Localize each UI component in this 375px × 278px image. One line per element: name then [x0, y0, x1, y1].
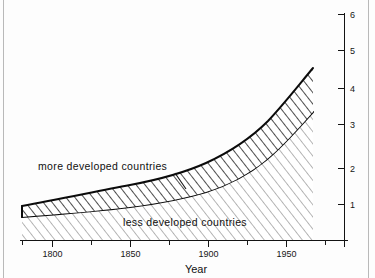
- x-tick-label-1900: 1900: [198, 249, 218, 259]
- x-tick-label-1950: 1950: [276, 249, 296, 259]
- x-tick-label-1800: 1800: [42, 249, 62, 259]
- y-tick-label-2: 2: [350, 164, 355, 174]
- y-tick-label-6: 6: [350, 10, 355, 20]
- population-growth-area-chart: 1 2 3 4 5 6 1800 1850 1900 1950 Year mor…: [0, 0, 375, 278]
- x-tick-label-1850: 1850: [120, 249, 140, 259]
- label-less-developed-countries: less developed countries: [123, 216, 247, 228]
- y-tick-label-4: 4: [350, 84, 355, 94]
- figure-container: 1 2 3 4 5 6 1800 1850 1900 1950 Year mor…: [0, 0, 375, 278]
- y-tick-label-5: 5: [350, 46, 355, 56]
- label-more-developed-countries: more developed countries: [38, 160, 167, 172]
- y-tick-label-3: 3: [350, 120, 355, 130]
- x-axis-title: Year: [185, 263, 208, 275]
- y-tick-label-1: 1: [350, 200, 355, 210]
